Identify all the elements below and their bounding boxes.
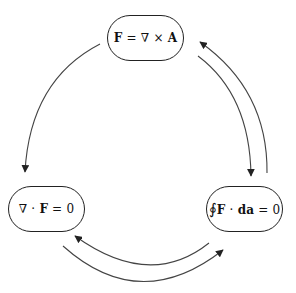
- edge-top-to-right: [198, 56, 251, 176]
- edge-right-to-top: [200, 42, 267, 173]
- implication-cycle-diagram: F = ∇ × A ∇ · F = 0 ∮F · da = 0: [0, 0, 296, 293]
- label-part: F: [39, 202, 48, 216]
- edge-top-to-left: [25, 44, 100, 172]
- node-label: ∇ · F = 0: [19, 202, 74, 216]
- label-part: ·: [226, 203, 238, 217]
- label-part: = ∇ ×: [123, 31, 168, 45]
- node-closed-surface-integral: ∮F · da = 0: [206, 186, 283, 232]
- contour-integral-symbol: ∮: [209, 200, 217, 218]
- edge-right-to-left: [75, 236, 209, 265]
- label-part: F: [217, 203, 226, 217]
- label-part: da: [238, 203, 255, 217]
- label-part: = 0: [254, 203, 280, 217]
- label-part: = 0: [48, 202, 74, 216]
- edge-left-to-right: [63, 246, 223, 282]
- label-part: ∇ ·: [19, 202, 40, 216]
- label-part: A: [168, 31, 178, 45]
- node-zero-divergence: ∇ · F = 0: [8, 186, 85, 232]
- label-part: F: [114, 31, 123, 45]
- node-label: F = ∇ × A: [114, 31, 177, 45]
- node-label: ∮F · da = 0: [209, 200, 281, 218]
- node-curl-of-potential: F = ∇ × A: [107, 15, 184, 61]
